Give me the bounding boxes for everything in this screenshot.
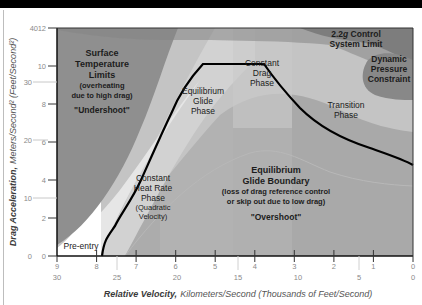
svg-text:Constant: Constant [136,173,171,183]
svg-text:2: 2 [42,214,46,223]
svg-text:6: 6 [42,138,46,147]
svg-text:Pressure: Pressure [371,64,408,74]
svg-text:20: 20 [173,273,181,282]
svg-text:Equilibrium: Equilibrium [182,86,224,96]
svg-text:Transition: Transition [327,100,364,110]
svg-text:9: 9 [55,262,59,271]
svg-text:0: 0 [28,252,32,261]
x-axis-label: Relative Velocity,Kilometers/Second (Tho… [104,289,372,299]
svg-text:3: 3 [292,262,296,271]
entry-corridor-chart: 0 2 4 6 8 10 12 0 10 20 30 40 9 8 7 6 5 … [0,0,422,305]
svg-text:Temperature: Temperature [75,59,129,69]
svg-text:due to high drag): due to high drag) [71,91,133,100]
svg-text:Surface: Surface [85,48,118,58]
svg-text:Equilibrium: Equilibrium [251,165,301,175]
svg-text:0: 0 [411,273,415,282]
svg-text:4: 4 [253,262,257,271]
svg-text:2.2g Control: 2.2g Control [331,29,381,39]
svg-text:6: 6 [174,262,178,271]
svg-text:30: 30 [24,78,32,87]
svg-text:8: 8 [42,100,46,109]
undershoot-label: Surface Temperature Limits (overheating … [71,48,133,115]
svg-text:(Quadratic: (Quadratic [135,203,170,212]
svg-text:"Undershoot": "Undershoot" [74,105,130,115]
svg-text:Drag: Drag [253,68,272,78]
svg-text:(loss of drag reference contro: (loss of drag reference control [222,187,330,196]
svg-text:Heat Rate: Heat Rate [134,183,173,193]
svg-text:5: 5 [357,273,361,282]
svg-text:5: 5 [213,262,217,271]
svg-text:40: 40 [30,24,38,33]
y-ticks-metric: 0 2 4 6 8 10 12 [38,24,57,261]
svg-text:4: 4 [42,176,46,185]
svg-text:12: 12 [38,24,46,33]
svg-text:Glide: Glide [193,96,213,106]
svg-text:Constant: Constant [245,58,280,68]
svg-text:Phase: Phase [334,110,358,120]
control-limit-label: 2.2g Control System Limit [330,29,383,49]
svg-text:30: 30 [53,273,61,282]
svg-text:Limits: Limits [89,70,116,80]
dynamic-pressure-label: Dynamic Pressure Constraint [368,54,411,84]
svg-text:Phase: Phase [250,78,274,88]
pre-entry-label: Pre-entry [64,241,100,251]
svg-text:2: 2 [332,262,336,271]
svg-text:Constraint: Constraint [368,74,411,84]
svg-text:System Limit: System Limit [330,39,383,49]
svg-text:10: 10 [38,62,46,71]
svg-text:7: 7 [134,262,138,271]
svg-text:"Overshoot": "Overshoot" [251,212,302,222]
svg-text:Phase: Phase [141,193,165,203]
svg-text:10: 10 [24,194,32,203]
svg-text:Glide Boundary: Glide Boundary [242,176,309,186]
svg-text:10: 10 [294,273,302,282]
svg-text:25: 25 [113,273,121,282]
svg-text:20: 20 [24,136,32,145]
svg-text:1: 1 [371,262,375,271]
svg-text:Velocity): Velocity) [139,212,168,221]
svg-text:or skip out due to low drag): or skip out due to low drag) [227,197,326,206]
svg-text:8: 8 [95,262,99,271]
svg-text:Dynamic: Dynamic [371,54,407,64]
svg-text:0: 0 [411,262,415,271]
svg-text:0: 0 [42,252,46,261]
svg-text:(overheating: (overheating [79,81,124,90]
svg-text:Phase: Phase [191,106,215,116]
svg-text:15: 15 [234,273,242,282]
x-ticks-imperial: 30 25 20 15 10 5 0 [53,256,415,282]
y-axis-label: Drag Acceleration,Meters/Second² (Feet/S… [8,38,18,246]
